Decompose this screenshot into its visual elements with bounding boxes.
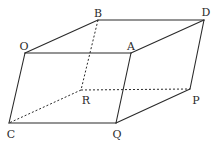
edge-ob <box>25 20 98 53</box>
parallelepiped-diagram: O A B D C Q R P <box>0 0 212 144</box>
edge-dp <box>190 20 204 89</box>
vertex-label-p: P <box>192 94 200 107</box>
vertex-label-c: C <box>7 128 15 141</box>
vertex-label-r: R <box>82 94 91 107</box>
edge-qp <box>116 89 190 123</box>
vertex-label-q: Q <box>112 128 121 141</box>
vertex-label-a: A <box>126 40 136 53</box>
vertex-label-d: D <box>202 6 211 19</box>
solid-edges <box>9 20 204 123</box>
edge-ad <box>131 20 204 53</box>
vertex-labels: O A B D C Q R P <box>7 6 211 141</box>
hidden-edge-rp <box>81 89 190 90</box>
edge-oc <box>9 53 25 123</box>
vertex-label-o: O <box>19 40 28 53</box>
hidden-edges <box>9 20 190 123</box>
edge-aq <box>116 53 131 123</box>
hidden-edge-rc <box>9 90 81 123</box>
vertex-label-b: B <box>94 7 102 20</box>
hidden-edge-br <box>81 20 98 90</box>
